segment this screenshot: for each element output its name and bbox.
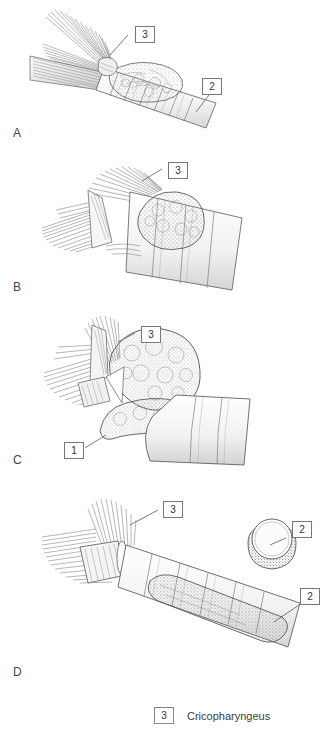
panel-a-leaders: [0, 0, 325, 150]
panel-b-leaders: [0, 150, 325, 305]
panel-c: 3 1 C: [0, 305, 325, 475]
panel-a: 3 2 A: [0, 0, 325, 150]
callout-d-2-esophagus[interactable]: 2: [300, 588, 320, 605]
callout-a-3[interactable]: 3: [135, 26, 155, 43]
panel-d: 3 2 2 D: [0, 475, 325, 690]
callout-c-1[interactable]: 1: [64, 442, 84, 459]
legend-box-3: 3: [154, 707, 174, 724]
anatomical-figure: 3 2 A: [0, 0, 325, 731]
legend-label-cricopharyngeus: Cricopharyngeus: [187, 710, 270, 722]
panel-b: 3 B: [0, 150, 325, 305]
callout-b-3[interactable]: 3: [168, 162, 188, 179]
callout-d-3[interactable]: 3: [163, 501, 183, 518]
panel-c-leaders: [0, 305, 325, 475]
callout-c-3[interactable]: 3: [141, 326, 161, 343]
callout-a-2[interactable]: 2: [202, 78, 222, 95]
legend: 3 Cricopharyngeus: [154, 707, 270, 724]
callout-d-2-inset[interactable]: 2: [292, 521, 312, 538]
